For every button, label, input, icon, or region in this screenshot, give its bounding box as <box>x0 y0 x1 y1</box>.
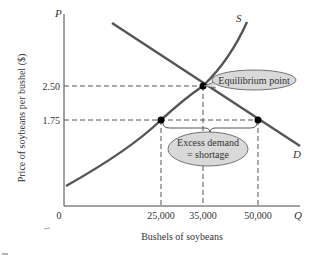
x-axis-title: Bushels of soybeans <box>141 231 223 242</box>
quantity-demanded-point <box>255 117 262 124</box>
x-tick-50000: 50,000 <box>244 210 272 221</box>
equilibrium-label: Equilibrium point <box>218 75 290 86</box>
x-tick-35000: 35,000 <box>189 210 217 221</box>
x-tick-25000: 25,000 <box>147 210 175 221</box>
shortage-label: = shortage <box>187 149 230 160</box>
supply-label: S <box>236 12 242 24</box>
origin-label: 0 <box>57 210 62 221</box>
y-tick-1-75: 1.75 <box>43 115 61 126</box>
excess-demand-brace <box>163 123 257 133</box>
quantity-supplied-point <box>158 117 165 124</box>
excess-demand-label: Excess demand <box>177 137 239 148</box>
y-tick-2-50: 2.50 <box>43 81 61 92</box>
y-axis-title: Price of soybeans per bushel ($) <box>16 54 28 183</box>
decorative-mark <box>44 228 50 229</box>
supply-demand-chart: Equilibrium point Excess demand = shorta… <box>0 0 325 258</box>
y-axis-letter: P <box>54 7 62 19</box>
x-axis-letter: Q <box>294 209 302 221</box>
demand-label: D <box>292 148 301 160</box>
